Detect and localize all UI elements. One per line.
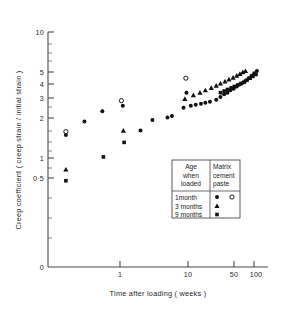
data-point <box>199 102 203 106</box>
data-point <box>218 95 222 99</box>
x-ticklabel-50: 50 <box>230 270 238 279</box>
data-point <box>203 101 207 105</box>
data-point <box>63 167 68 172</box>
legend-marker-matrix <box>215 195 219 199</box>
data-point <box>218 81 223 86</box>
y-ticklabel-4: 4 <box>40 80 44 89</box>
y-ticklabel-10: 10 <box>36 28 44 37</box>
data-point <box>150 118 154 122</box>
legend-marker-matrix <box>215 213 219 217</box>
legend-row-label-1month: 1month <box>175 194 197 201</box>
axes-frame <box>48 32 268 267</box>
data-point <box>254 73 258 77</box>
data-point <box>182 96 187 101</box>
data-point <box>197 90 202 95</box>
data-point <box>121 128 126 133</box>
legend-header-col2-line1: Matrix <box>213 163 232 170</box>
data-point <box>229 86 233 90</box>
data-point <box>255 69 259 73</box>
data-point <box>138 129 142 133</box>
data-point <box>184 76 188 80</box>
legend-header-col1-line3: loaded <box>181 180 201 187</box>
data-point <box>166 115 170 119</box>
data-point <box>182 106 186 110</box>
data-point <box>189 104 193 108</box>
data-point <box>243 68 248 73</box>
data-point <box>184 91 188 95</box>
y-ticklabel-3: 3 <box>40 94 44 103</box>
legend-row-label-9months: 9 months <box>175 211 203 218</box>
data-point <box>214 98 218 102</box>
data-point <box>194 103 198 107</box>
data-point <box>208 100 212 104</box>
legend-header-col1-line1: Age <box>185 163 197 171</box>
legend-header-col2-line3: paste <box>213 180 229 188</box>
data-point <box>233 85 237 89</box>
data-point <box>203 88 208 93</box>
data-point <box>191 93 196 98</box>
x-ticklabel-10: 10 <box>184 270 192 279</box>
x-ticklabel-1: 1 <box>118 270 122 279</box>
data-point <box>222 89 226 93</box>
data-point <box>239 82 243 86</box>
creep-coefficient-chart: 10 5 4 3 2 1 0·5 0 1 10 50 100 Time afte… <box>0 0 289 314</box>
data-point <box>100 109 104 113</box>
data-point <box>122 141 126 145</box>
y-ticklabel-0: 0 <box>40 263 44 272</box>
y-ticklabel-5: 5 <box>40 68 44 77</box>
y-ticklabel-2: 2 <box>40 114 44 123</box>
data-point <box>82 119 86 123</box>
x-ticklabel-100: 100 <box>250 270 263 279</box>
data-point <box>102 155 106 159</box>
data-point <box>226 88 230 92</box>
y-axis-ticks <box>48 32 54 238</box>
data-point <box>209 85 214 90</box>
data-point <box>121 104 125 108</box>
y-ticklabel-1: 1 <box>40 154 44 163</box>
y-axis-title: Creep coefficient ( creep strain / initi… <box>14 70 23 229</box>
legend-marker-cement-paste <box>230 195 234 199</box>
data-point <box>219 91 223 95</box>
legend-header-col2-line2: cement <box>213 172 235 179</box>
legend-row-label-3months: 3 months <box>175 203 203 210</box>
x-axis-ticks <box>120 261 254 267</box>
data-point <box>251 75 255 79</box>
data-point <box>64 130 68 134</box>
legend: Age when loaded Matrix cement paste 1mon… <box>172 160 240 218</box>
data-point <box>64 179 68 183</box>
legend-header-col1-line2: when <box>182 172 199 179</box>
data-point <box>236 83 240 87</box>
y-ticklabel-0-5: 0·5 <box>33 174 44 183</box>
chart-svg: 10 5 4 3 2 1 0·5 0 1 10 50 100 Time afte… <box>0 0 289 314</box>
data-point <box>170 114 174 118</box>
x-axis-title: Time after loading ( weeks ) <box>110 289 207 298</box>
data-point <box>119 99 123 103</box>
